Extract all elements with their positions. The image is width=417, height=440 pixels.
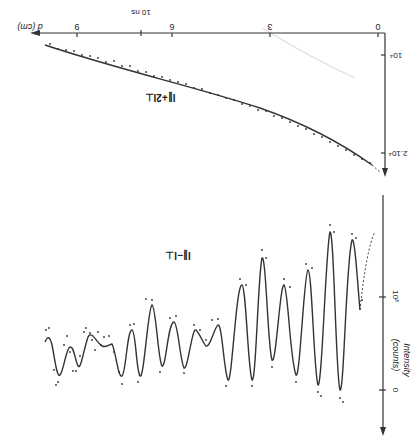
top-y-axis-arrow-icon: [382, 168, 388, 177]
y-axis-label-line2: (counts): [391, 339, 401, 372]
oscillation-data-points: [45, 224, 363, 403]
y-tick-label-0: 0: [391, 388, 400, 393]
y-tick-label-1e3: 10³: [391, 290, 400, 302]
x-tick-label-3: 3: [267, 22, 272, 32]
time-scale-label: 10 ns: [131, 8, 151, 17]
oscillation-dashed-segment: [360, 232, 375, 310]
decay-extrapolation: [372, 165, 380, 172]
bottom-panel: 10³ 0 Intensity (counts): [45, 195, 412, 436]
oscillation-fit-curve: [45, 232, 360, 390]
figure: 0 3 6 9 10 ns d (cm) 10⁴ 2.10⁴: [0, 0, 417, 440]
x-tick-label-0: 0: [375, 22, 380, 32]
bottom-panel-label: I∥−I⊥: [165, 249, 190, 261]
y-axis-label-line1: Intensity: [402, 343, 412, 377]
y-tick-label-1e4: 10⁴: [389, 51, 402, 60]
x-tick-label-9: 9: [74, 22, 79, 32]
x-tick-label-6: 6: [169, 22, 174, 32]
bottom-y-axis-arrow-icon: [380, 427, 386, 436]
scan-artifact: [262, 28, 355, 78]
y-tick-label-2e4: 2.10⁴: [388, 149, 408, 158]
x-axis-label: d (cm): [17, 22, 43, 32]
top-panel: 0 3 6 9 10 ns d (cm) 10⁴ 2.10⁴: [17, 8, 407, 177]
top-panel-label: I∥+2I⊥: [145, 91, 176, 103]
